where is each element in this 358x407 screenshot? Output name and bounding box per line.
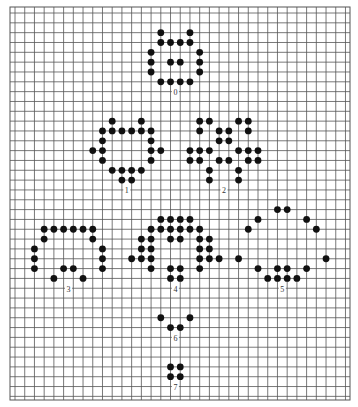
dot [167,265,174,272]
dot [31,255,38,262]
dot [196,236,203,243]
dot [50,275,57,282]
pattern-4: 4 [128,216,222,294]
dot [177,373,184,380]
dot [187,147,194,154]
dot [89,236,96,243]
dot [119,177,126,184]
pattern-7: 7 [167,363,184,392]
dot [89,226,96,233]
dot [157,314,164,321]
dot [235,255,242,262]
dot [264,275,271,282]
dot [235,177,242,184]
dot [157,216,164,223]
pattern-2: 2 [187,118,262,195]
pattern-0: 0 [148,29,203,96]
dot [196,226,203,233]
dot [323,255,330,262]
dot [177,236,184,243]
pattern-label: 3 [66,285,70,294]
dot [148,69,155,76]
pattern-label: 6 [173,334,177,343]
dot [99,157,106,164]
pattern-label: 1 [125,186,129,195]
dot [303,265,310,272]
dot [196,49,203,56]
dot [167,275,174,282]
dot [148,226,155,233]
dot [196,255,203,262]
dot [157,78,164,85]
dot [196,265,203,272]
dot [206,177,213,184]
dot [99,137,106,144]
dot [41,236,48,243]
dot [138,255,145,262]
dot [255,147,262,154]
dot [138,246,145,253]
dot [245,147,252,154]
dot [187,78,194,85]
dot [225,157,232,164]
dot [187,216,194,223]
dot [138,167,145,174]
dot [187,157,194,164]
dot [177,265,184,272]
dot [177,78,184,85]
pattern-label: 7 [173,383,177,392]
dot [206,118,213,125]
dot [303,216,310,223]
dot [167,78,174,85]
dot [196,69,203,76]
dot [206,255,213,262]
dot [177,363,184,370]
dot [109,118,116,125]
dot [196,59,203,66]
dot [177,275,184,282]
dot [99,147,106,154]
dot [177,226,184,233]
dot [187,314,194,321]
dot [80,275,87,282]
dot [99,265,106,272]
dot [187,226,194,233]
dot [206,236,213,243]
dot [109,167,116,174]
dot [255,265,262,272]
dot [167,373,174,380]
dot [148,49,155,56]
dot [60,265,67,272]
dot [255,157,262,164]
dot [235,167,242,174]
dot [196,157,203,164]
dot [177,39,184,46]
dot [138,128,145,135]
dot [284,265,291,272]
dot [128,177,135,184]
dot [89,147,96,154]
dot [157,147,164,154]
pattern-6: 6 [157,314,193,343]
dot [245,157,252,164]
dot [167,226,174,233]
pattern-3: 3 [31,226,106,294]
pattern-label: 0 [173,88,177,97]
dot [148,246,155,253]
dot [274,275,281,282]
dot [255,216,262,223]
dot [206,246,213,253]
dot [138,236,145,243]
dot [128,255,135,262]
dot [196,246,203,253]
dot [148,255,155,262]
dot [109,128,116,135]
dot [119,128,126,135]
dot [216,255,223,262]
dot [284,275,291,282]
dot [41,226,48,233]
dot [196,128,203,135]
dot [99,128,106,135]
dot [167,236,174,243]
dot [216,157,223,164]
